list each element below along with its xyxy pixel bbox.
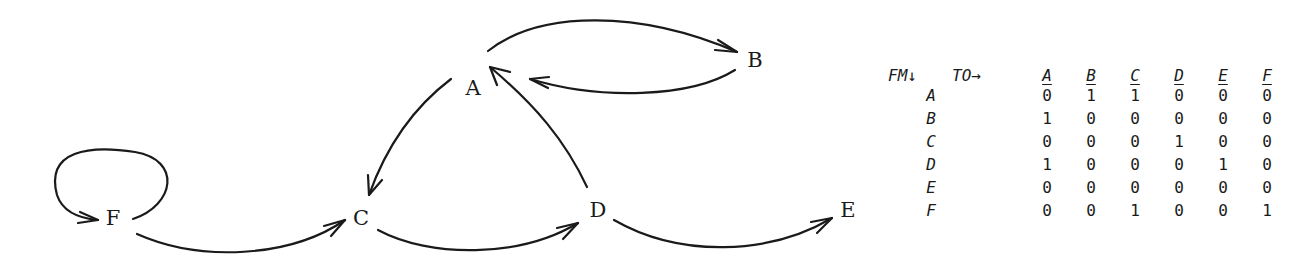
edge-a-to-c	[368, 79, 451, 195]
cell-b-e: 0	[1213, 109, 1233, 129]
cell-d-b: 0	[1081, 155, 1101, 175]
row-label-c: C	[921, 132, 941, 152]
matrix-row-c: C 0 0 0 1 0 0	[888, 132, 1288, 152]
row-label-a: A	[921, 86, 941, 106]
cell-e-a: 0	[1037, 178, 1057, 198]
cell-a-d: 0	[1169, 86, 1189, 106]
cell-c-a: 0	[1037, 132, 1057, 152]
col-header-f: F	[1257, 66, 1277, 86]
edge-f-to-c	[137, 220, 345, 252]
cell-a-c: 1	[1125, 86, 1145, 106]
node-a: A	[464, 76, 481, 100]
cell-e-f: 0	[1257, 178, 1277, 198]
cell-c-e: 0	[1213, 132, 1233, 152]
cell-a-b: 1	[1081, 86, 1101, 106]
cell-d-d: 0	[1169, 155, 1189, 175]
cell-e-e: 0	[1213, 178, 1233, 198]
edge-c-to-d	[378, 223, 578, 250]
edge-d-to-e	[614, 218, 832, 247]
cell-f-c: 1	[1125, 201, 1145, 221]
cell-c-b: 0	[1081, 132, 1101, 152]
cell-e-d: 0	[1169, 178, 1189, 198]
matrix-row-b: B 1 0 0 0 0 0	[888, 109, 1288, 129]
cell-d-c: 0	[1125, 155, 1145, 175]
cell-b-c: 0	[1125, 109, 1145, 129]
row-label-d: D	[921, 155, 941, 175]
col-header-e: E	[1213, 66, 1233, 86]
cell-f-b: 0	[1081, 201, 1101, 221]
matrix-row-d: D 1 0 0 0 1 0	[888, 155, 1288, 175]
matrix-row-f: F 0 0 1 0 0 1	[888, 201, 1288, 221]
col-header-d: D	[1169, 66, 1189, 86]
matrix-row-e: E 0 0 0 0 0 0	[888, 178, 1288, 198]
cell-d-f: 0	[1257, 155, 1277, 175]
cell-b-b: 0	[1081, 109, 1101, 129]
cell-a-a: 0	[1037, 86, 1057, 106]
cell-f-d: 0	[1169, 201, 1189, 221]
cell-c-d: 1	[1169, 132, 1189, 152]
cell-d-a: 1	[1037, 155, 1057, 175]
node-c: C	[353, 206, 369, 230]
cell-b-a: 1	[1037, 109, 1057, 129]
cell-b-d: 0	[1169, 109, 1189, 129]
from-axis-label: FM↓	[888, 66, 917, 86]
row-label-f: F	[921, 201, 941, 221]
edge-b-to-a	[530, 70, 735, 93]
edge-d-to-a	[490, 67, 587, 187]
cell-a-e: 0	[1213, 86, 1233, 106]
edge-a-to-b	[488, 20, 737, 52]
col-header-c: C	[1125, 66, 1145, 86]
row-label-b: B	[921, 109, 941, 129]
matrix-header-row: FM↓ TO→ A B C D E F	[888, 66, 1288, 86]
cell-f-f: 1	[1257, 201, 1277, 221]
cell-c-f: 0	[1257, 132, 1277, 152]
node-f: F	[106, 206, 121, 230]
cell-b-f: 0	[1257, 109, 1277, 129]
cell-e-c: 0	[1125, 178, 1145, 198]
col-header-b: B	[1081, 66, 1101, 86]
directed-graph: A B C D E F	[0, 0, 870, 259]
col-header-a: A	[1037, 66, 1057, 86]
cell-c-c: 0	[1125, 132, 1145, 152]
node-e: E	[840, 198, 855, 222]
cell-a-f: 0	[1257, 86, 1277, 106]
to-axis-label: TO→	[952, 66, 981, 86]
row-label-e: E	[921, 178, 941, 198]
cell-e-b: 0	[1081, 178, 1101, 198]
cell-f-e: 0	[1213, 201, 1233, 221]
node-b: B	[747, 48, 762, 72]
node-d: D	[590, 198, 607, 222]
cell-f-a: 0	[1037, 201, 1057, 221]
matrix-row-a: A 0 1 1 0 0 0	[888, 86, 1288, 106]
cell-d-e: 1	[1213, 155, 1233, 175]
